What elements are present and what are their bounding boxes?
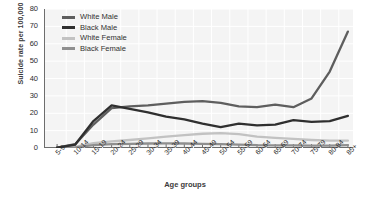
legend-swatch-icon xyxy=(62,16,75,19)
legend-item-black-male[interactable]: Black Male xyxy=(62,23,127,34)
x-axis-title: Age groups xyxy=(0,180,370,189)
legend-label: Black Female xyxy=(80,45,126,53)
legend: White MaleBlack MaleWhite FemaleBlack Fe… xyxy=(62,12,127,54)
legend-swatch-icon xyxy=(62,26,75,29)
x-axis-tick-labels: 5-910-1415-1920-2425-2930-3435-3940-4445… xyxy=(0,0,370,200)
legend-item-white-female[interactable]: White Female xyxy=(62,33,127,44)
legend-item-black-female[interactable]: Black Female xyxy=(62,44,127,55)
legend-label: White Female xyxy=(80,34,127,42)
legend-swatch-icon xyxy=(62,47,75,50)
legend-item-white-male[interactable]: White Male xyxy=(62,12,127,23)
legend-label: White Male xyxy=(80,13,118,21)
legend-label: Black Male xyxy=(80,24,117,32)
legend-swatch-icon xyxy=(62,37,75,40)
suicide-rate-line-chart: Suicide rate per 100,000 010203040506070… xyxy=(0,0,370,200)
